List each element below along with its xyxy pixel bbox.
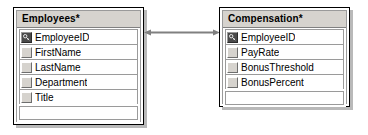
- field-row[interactable]: EmployeeID: [19, 29, 138, 44]
- field-selector-icon: [227, 77, 238, 88]
- relationship-connector[interactable]: [144, 27, 220, 38]
- key-icon: [21, 32, 32, 43]
- field-label: Title: [35, 92, 54, 103]
- key-icon: [227, 32, 238, 43]
- field-row[interactable]: FirstName: [19, 44, 138, 59]
- table-employees[interactable]: Employees* EmployeeID: [13, 7, 144, 125]
- relationship-diagram-canvas: Employees* EmployeeID: [0, 0, 368, 135]
- field-row[interactable]: BonusPercent: [225, 74, 344, 89]
- field-row[interactable]: BonusThreshold: [225, 59, 344, 74]
- table-compensation-title[interactable]: Compensation*: [223, 11, 346, 28]
- field-label: FirstName: [35, 47, 81, 58]
- field-selector-icon: [21, 62, 32, 73]
- field-label: EmployeeID: [35, 32, 89, 43]
- field-label: EmployeeID: [241, 32, 295, 43]
- field-selector-icon: [227, 47, 238, 58]
- table-compensation[interactable]: Compensation* EmployeeID: [219, 7, 350, 107]
- field-label: Department: [35, 77, 87, 88]
- empty-field-area[interactable]: [19, 106, 138, 120]
- field-label: PayRate: [241, 47, 279, 58]
- field-row[interactable]: PayRate: [225, 44, 344, 59]
- field-row[interactable]: Title: [19, 89, 138, 104]
- field-row[interactable]: Department: [19, 74, 138, 89]
- field-selector-icon: [21, 77, 32, 88]
- table-compensation-inner: Compensation* EmployeeID: [222, 10, 347, 104]
- field-label: BonusPercent: [241, 77, 304, 88]
- table-compensation-field-list: EmployeeID PayRate BonusThreshold BonusP…: [223, 28, 346, 107]
- empty-field-area[interactable]: [225, 91, 344, 105]
- field-label: BonusThreshold: [241, 62, 314, 73]
- field-selector-icon: [227, 62, 238, 73]
- field-label: LastName: [35, 62, 81, 73]
- table-employees-field-list: EmployeeID FirstName LastName Department: [17, 28, 140, 122]
- field-selector-icon: [21, 47, 32, 58]
- field-selector-icon: [21, 92, 32, 103]
- table-employees-title[interactable]: Employees*: [17, 11, 140, 28]
- table-employees-inner: Employees* EmployeeID: [16, 10, 141, 122]
- field-row[interactable]: LastName: [19, 59, 138, 74]
- field-row[interactable]: EmployeeID: [225, 29, 344, 44]
